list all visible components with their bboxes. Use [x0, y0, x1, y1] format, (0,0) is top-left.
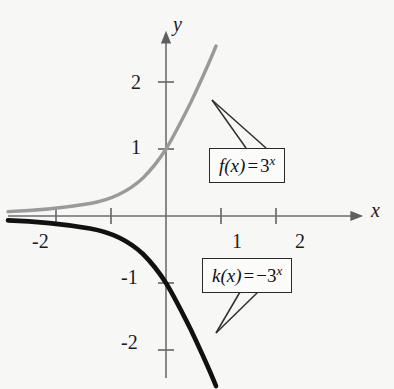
leader-f-right [212, 100, 266, 148]
callout-f-argument: (x) [224, 155, 245, 176]
ytick-label-1: 1 [131, 137, 141, 157]
xtick-label-2: 2 [295, 231, 305, 251]
leader-f-left [212, 100, 246, 148]
callout-f-equals: = [245, 155, 260, 176]
ytick-label-neg1: -1 [121, 267, 138, 287]
exponential-functions-figure: y x 2 1 -1 -2 -2 1 2 f(x)=3x k(x)=−3x [0, 0, 394, 389]
xtick-label-neg2: -2 [32, 231, 49, 251]
xtick-label-1: 1 [232, 231, 242, 251]
graph-canvas [0, 0, 394, 389]
ytick-label-neg2: -2 [121, 332, 138, 352]
curve-f-of-x [8, 46, 216, 212]
callout-k-argument: (x) [220, 265, 241, 286]
ytick-label-2: 2 [131, 72, 141, 92]
y-axis-label: y [173, 14, 182, 34]
leader-lines-f [212, 100, 266, 148]
callout-f-of-x: f(x)=3x [209, 148, 285, 183]
x-axis-label: x [371, 200, 380, 220]
callout-k-exponent: x [276, 263, 282, 278]
callout-k-of-x: k(x)=−3x [202, 258, 292, 293]
callout-f-base: 3 [260, 155, 270, 176]
leader-lines-k [216, 292, 258, 333]
callout-k-minus-sign: − [256, 265, 267, 286]
callout-k-equals: = [242, 265, 257, 286]
axis-lines [8, 42, 352, 378]
callout-f-exponent: x [270, 153, 276, 168]
